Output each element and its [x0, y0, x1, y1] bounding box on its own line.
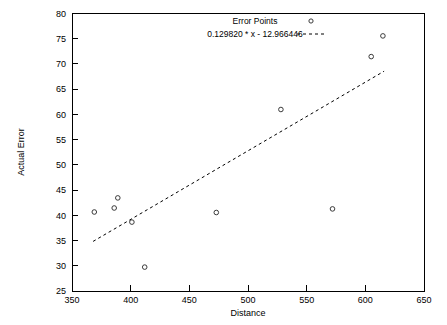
data-point [130, 220, 135, 225]
x-tick-label-350: 350 [64, 295, 79, 305]
data-point [330, 207, 335, 212]
regression-line-group [93, 71, 384, 241]
x-tick-label-650: 650 [416, 295, 431, 305]
data-point [112, 206, 117, 211]
data-point [381, 34, 386, 39]
regression-fit-line [93, 71, 384, 241]
y-tick-label-80: 80 [56, 9, 66, 19]
chart-figure: 25 30 35 40 45 50 55 60 65 70 75 80 [0, 0, 447, 325]
x-axis-title: Distance [230, 308, 265, 318]
y-tick-label-35: 35 [56, 236, 66, 246]
y-axis-title: Actual Error [16, 128, 26, 176]
y-tick-label-30: 30 [56, 261, 66, 271]
x-tick-label-500: 500 [240, 295, 255, 305]
x-tick-label-450: 450 [182, 295, 197, 305]
data-point-group [92, 34, 385, 270]
data-point [369, 54, 374, 59]
data-point [279, 107, 284, 112]
x-tick-label-550: 550 [299, 295, 314, 305]
legend-key-open-circle-icon [309, 19, 313, 23]
y-tick-label-60: 60 [56, 110, 66, 120]
y-tick-group [72, 14, 78, 292]
y-tick-label-55: 55 [56, 135, 66, 145]
x-tick-label-400: 400 [123, 295, 138, 305]
legend-label-equation: 0.129820 * x - 12.966446 [207, 29, 303, 39]
y-tick-label-50: 50 [56, 160, 66, 170]
data-point [116, 196, 121, 201]
legend: Error Points 0.129820 * x - 12.966446 [207, 16, 325, 39]
x-tick-group [72, 285, 424, 291]
y-tick-label-70: 70 [56, 59, 66, 69]
data-point [142, 265, 147, 270]
y-axis: 25 30 35 40 45 50 55 60 65 70 75 80 [56, 9, 78, 297]
y-tick-label-65: 65 [56, 84, 66, 94]
data-point [92, 210, 97, 215]
x-axis: 350 400 450 500 550 600 650 [64, 285, 431, 305]
x-tick-label-600: 600 [358, 295, 373, 305]
y-tick-label-75: 75 [56, 34, 66, 44]
legend-label-error-points: Error Points [233, 16, 278, 26]
y-tick-label-45: 45 [56, 185, 66, 195]
data-point [214, 210, 219, 215]
scatter-plot: 25 30 35 40 45 50 55 60 65 70 75 80 [0, 0, 447, 325]
y-tick-label-40: 40 [56, 211, 66, 221]
